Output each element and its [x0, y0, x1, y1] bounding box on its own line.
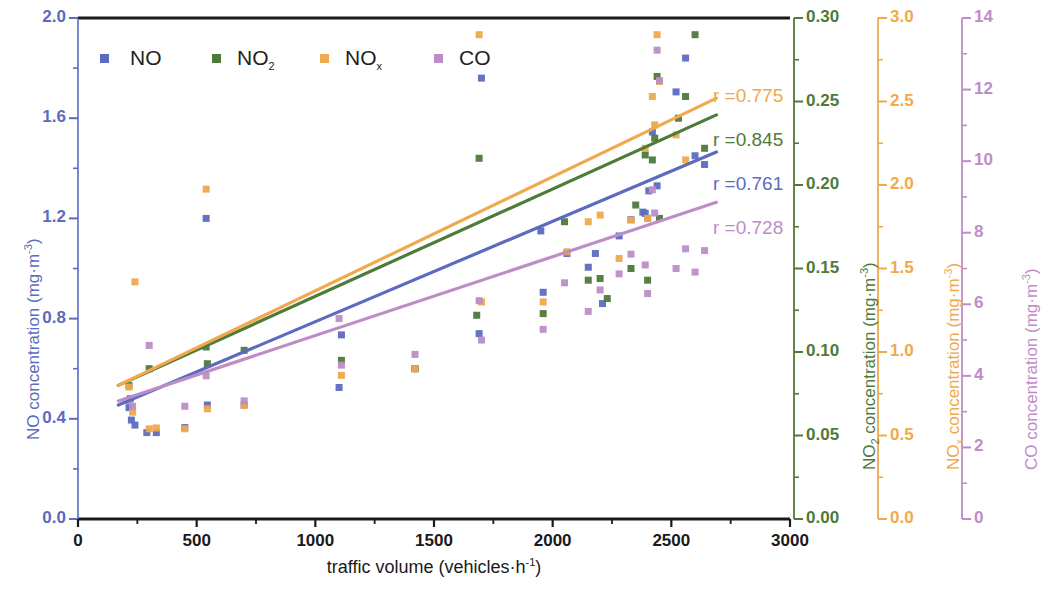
datapoint-nox [616, 255, 623, 262]
datapoint-nox [131, 278, 138, 285]
datapoint-co [146, 342, 153, 349]
y-ticklabel-no: 2.0 [10, 7, 66, 27]
y-axis-title-nox: NOx concentration (mg·m-3) [942, 263, 965, 470]
y-ticklabel-nox: 2.0 [890, 174, 914, 194]
datapoint-co [644, 290, 651, 297]
legend-label-no2: NO2 [237, 46, 275, 72]
datapoint-nox [153, 424, 160, 431]
correlation-label-no: r =0.761 [713, 173, 783, 195]
x-ticklabel: 0 [38, 531, 118, 551]
datapoint-nox [181, 425, 188, 432]
legend-label-no: NO [130, 46, 162, 70]
datapoint-no [592, 250, 599, 257]
datapoint-no2 [682, 93, 689, 100]
datapoint-no [203, 215, 210, 222]
datapoint-no2 [649, 156, 656, 163]
datapoint-no2 [561, 218, 568, 225]
correlation-label-co: r =0.728 [713, 217, 783, 239]
datapoint-no2 [597, 275, 604, 282]
datapoint-co [478, 337, 485, 344]
datapoint-no2 [632, 202, 639, 209]
y-ticklabel-nox: 0.0 [890, 508, 914, 528]
datapoint-nox [597, 212, 604, 219]
y-ticklabel-no2: 0.30 [806, 7, 839, 27]
correlation-label-no2: r =0.845 [713, 129, 783, 151]
datapoint-co [241, 397, 248, 404]
y-ticklabel-no: 1.2 [10, 207, 66, 227]
datapoint-co [692, 269, 699, 276]
datapoint-co [654, 47, 661, 54]
datapoint-co [642, 261, 649, 268]
regression-line-nox [118, 98, 716, 385]
y-ticklabel-co: 14 [974, 7, 993, 27]
datapoint-nox [649, 93, 656, 100]
datapoint-co [616, 270, 623, 277]
datapoint-co [336, 315, 343, 322]
datapoint-no [338, 331, 345, 338]
y-axis-title-no2: NO2 concentration (mg·m-3) [858, 262, 881, 470]
datapoint-no [585, 264, 592, 271]
datapoint-no2 [540, 310, 547, 317]
datapoint-nox [146, 425, 153, 432]
datapoint-co [656, 77, 663, 84]
datapoint-nox [412, 365, 419, 372]
datapoint-no2 [642, 151, 649, 158]
legend-marker-no2 [212, 54, 221, 63]
correlation-label-nox: r =0.775 [713, 85, 783, 107]
x-ticklabel: 500 [157, 531, 237, 551]
datapoint-co [476, 297, 483, 304]
y-ticklabel-no2: 0.25 [806, 91, 839, 111]
datapoint-no2 [644, 277, 651, 284]
legend-label-nox: NOx [345, 46, 382, 72]
y-ticklabel-no: 0.0 [10, 508, 66, 528]
datapoint-no [701, 161, 708, 168]
x-ticklabel: 3000 [750, 531, 830, 551]
datapoint-nox [585, 218, 592, 225]
datapoint-no2 [473, 312, 480, 319]
datapoint-nox [204, 405, 211, 412]
datapoint-co [585, 308, 592, 315]
y-ticklabel-nox: 3.0 [890, 7, 914, 27]
datapoint-no [131, 422, 138, 429]
y-ticklabel-nox: 0.5 [890, 425, 914, 445]
datapoint-no [336, 384, 343, 391]
datapoint-co [561, 279, 568, 286]
x-ticklabel: 2500 [631, 531, 711, 551]
y-ticklabel-nox: 2.5 [890, 91, 914, 111]
x-ticklabel: 1000 [275, 531, 355, 551]
datapoint-no2 [604, 295, 611, 302]
datapoint-nox [654, 31, 661, 38]
datapoint-nox [203, 186, 210, 193]
datapoint-co [129, 403, 136, 410]
x-ticklabel: 2000 [513, 531, 593, 551]
datapoint-co [649, 186, 656, 193]
legend-marker-co [434, 54, 443, 63]
datapoint-co [651, 210, 658, 217]
x-ticklabel: 1500 [394, 531, 474, 551]
datapoint-nox [476, 31, 483, 38]
y-ticklabel-no2: 0.10 [806, 341, 839, 361]
y-ticklabel-no: 1.6 [10, 107, 66, 127]
datapoint-co [412, 351, 419, 358]
datapoint-co [682, 245, 689, 252]
datapoint-co [338, 362, 345, 369]
datapoint-co [673, 265, 680, 272]
datapoint-no [682, 55, 689, 62]
y-ticklabel-no2: 0.15 [806, 258, 839, 278]
datapoint-no2 [476, 155, 483, 162]
legend-marker-no [100, 54, 109, 63]
legend-label-co: CO [459, 46, 491, 70]
datapoint-co [181, 403, 188, 410]
y-axis-title-no: NO concentration (mg·m-3) [22, 238, 44, 440]
datapoint-co [701, 247, 708, 254]
datapoint-no [540, 289, 547, 296]
y-ticklabel-no2: 0.20 [806, 174, 839, 194]
y-ticklabel-nox: 1.0 [890, 341, 914, 361]
datapoint-nox [126, 384, 133, 391]
datapoint-no2 [692, 31, 699, 38]
datapoint-no2 [627, 265, 634, 272]
datapoint-nox [644, 215, 651, 222]
datapoint-nox [338, 372, 345, 379]
y-ticklabel-no2: 0.00 [806, 508, 839, 528]
